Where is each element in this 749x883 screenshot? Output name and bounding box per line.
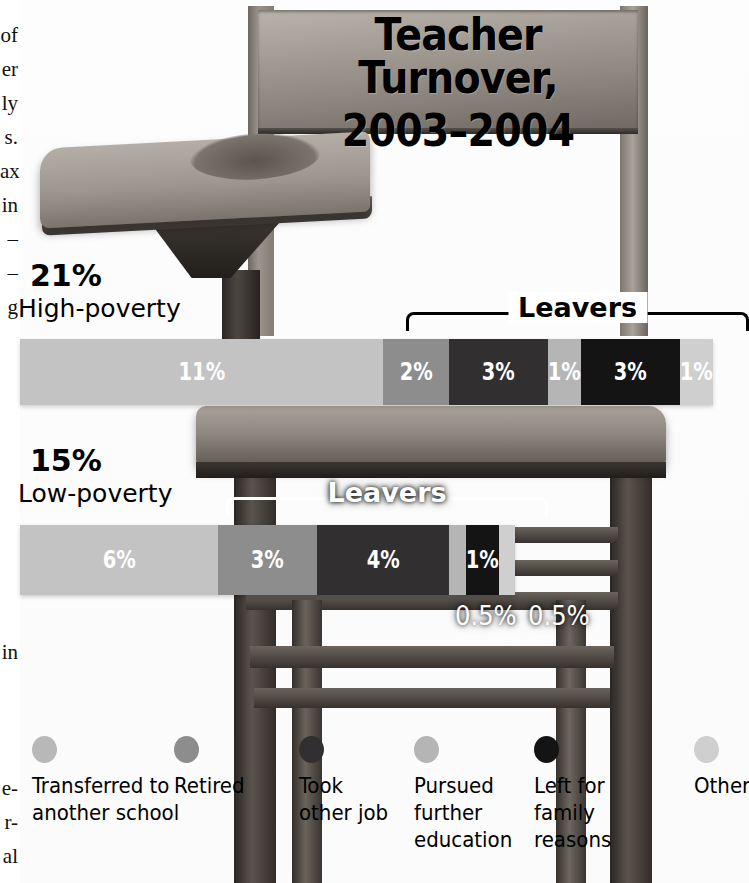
group-name-high-poverty: High-poverty	[18, 294, 181, 323]
legend-swatch-icon	[174, 736, 199, 763]
bar-segment-low-poverty-3: 0.5%	[449, 525, 466, 595]
stacked-bar-high-poverty: 11%2%3%1%3%1%	[20, 339, 713, 405]
title-line-1: Teacher Turnover,	[282, 14, 634, 100]
legend-swatch-icon	[299, 736, 324, 763]
bar-segment-high-poverty-0: 11%	[20, 339, 383, 405]
bar-segment-low-poverty-4: 1%	[466, 525, 499, 595]
bar-segment-high-poverty-3: 1%	[548, 339, 581, 405]
bar-segment-low-poverty-0: 6%	[20, 525, 218, 595]
page-title: Teacher Turnover, 2003–2004	[258, 14, 658, 152]
legend-swatch-icon	[694, 736, 719, 763]
legend-swatch-icon	[414, 736, 439, 763]
group-name-low-poverty: Low-poverty	[18, 479, 172, 508]
bar-segment-high-poverty-5: 1%	[680, 339, 713, 405]
margin-text-top: of er ly s. ax in – – g	[0, 18, 18, 324]
group-percent-low-poverty: 15%	[30, 443, 172, 478]
chair-seat-shadow	[196, 462, 666, 478]
bar-segment-value: 1%	[548, 358, 581, 386]
bar-segment-value: 1%	[466, 546, 499, 574]
legend-item-label: Took other job	[299, 773, 388, 825]
chair-stretcher-4	[250, 646, 614, 668]
legend-item-label: Retired	[174, 773, 245, 798]
bar-segment-value: 2%	[400, 358, 433, 386]
group-label-low-poverty: 15% Low-poverty	[18, 443, 172, 508]
legend-item-2: Took other job	[299, 736, 388, 826]
legend-item-0: Transferred to another school	[32, 736, 179, 826]
bar-segment-value: 3%	[251, 546, 284, 574]
legend-item-4: Left for family reasons	[534, 736, 611, 853]
bar-segment-low-poverty-5: 0.5%	[499, 525, 516, 595]
title-line-2: 2003–2004	[282, 110, 634, 153]
stacked-bar-low-poverty: 6%3%4%0.5%1%0.5%	[20, 525, 515, 595]
infographic-page: Teacher Turnover, 2003–2004 of er ly s. …	[0, 0, 749, 883]
bar-segment-value: 1%	[680, 358, 713, 386]
leavers-label-high: Leavers	[508, 292, 647, 323]
legend-swatch-icon	[32, 736, 57, 763]
bar-segment-value: 4%	[367, 546, 400, 574]
callout-label-pursued-further-education: 0.5%	[455, 600, 517, 631]
bar-segment-high-poverty-4: 3%	[581, 339, 680, 405]
legend-item-label: Pursued further education	[414, 773, 512, 852]
bar-segment-low-poverty-1: 3%	[218, 525, 317, 595]
bar-segment-low-poverty-2: 4%	[317, 525, 449, 595]
leavers-bracket-high-poverty: Leavers	[406, 296, 749, 330]
chair-stretcher-5	[254, 688, 610, 708]
bar-segment-high-poverty-1: 2%	[383, 339, 449, 405]
leavers-bracket-low-poverty: Leavers	[226, 481, 548, 515]
bar-segment-high-poverty-2: 3%	[449, 339, 548, 405]
bar-segment-value: 3%	[614, 358, 647, 386]
bar-segment-value: 6%	[103, 546, 136, 574]
legend-item-label: Transferred to another school	[32, 773, 179, 825]
leavers-label-low: Leavers	[317, 477, 456, 508]
bar-segment-value: 3%	[482, 358, 515, 386]
chair-seat	[196, 406, 666, 468]
legend-item-1: Retired	[174, 736, 245, 799]
legend-item-3: Pursued further education	[414, 736, 512, 853]
legend-item-label: Other	[694, 773, 749, 798]
group-percent-high-poverty: 21%	[30, 258, 181, 293]
legend: Transferred to another schoolRetiredTook…	[14, 736, 749, 883]
group-label-high-poverty: 21% High-poverty	[18, 258, 181, 323]
bar-segment-value: 11%	[178, 358, 225, 386]
legend-item-label: Left for family reasons	[534, 773, 611, 852]
callout-label-other: 0.5%	[528, 600, 590, 631]
legend-swatch-icon	[534, 736, 559, 763]
legend-item-5: Other	[694, 736, 749, 799]
